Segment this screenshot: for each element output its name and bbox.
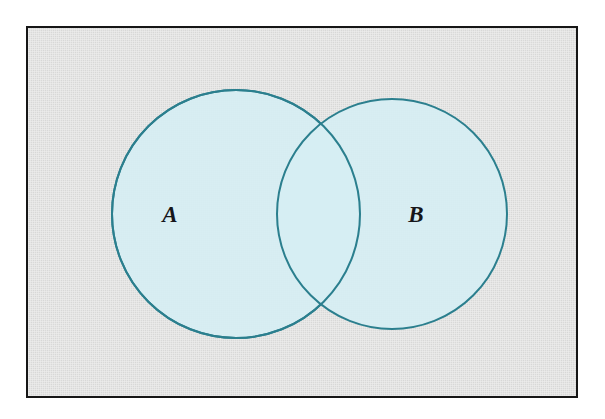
set-circle-b[interactable]: [277, 99, 507, 329]
venn-diagram-svg: A B: [28, 28, 576, 396]
set-label-b: B: [407, 202, 423, 227]
figure-root: A B: [0, 0, 605, 419]
diagram-frame: A B: [26, 26, 578, 398]
set-label-a: A: [160, 202, 177, 227]
